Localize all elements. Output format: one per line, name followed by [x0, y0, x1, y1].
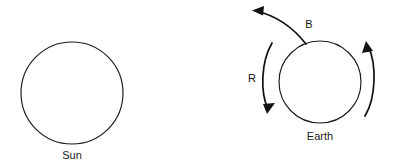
sun-circle — [21, 42, 123, 144]
earth-label: Earth — [307, 130, 333, 142]
r-vector-arc — [263, 43, 272, 109]
sun-earth-diagram: Sun Earth B R — [0, 0, 397, 167]
right-rotation-arrowhead-icon — [362, 41, 373, 53]
b-vector-label: B — [305, 18, 312, 30]
r-vector-label: R — [248, 72, 256, 84]
sun-label: Sun — [62, 149, 82, 161]
right-rotation-arc — [365, 46, 374, 116]
earth-circle — [279, 41, 361, 123]
diagram-canvas: Sun Earth B R — [0, 0, 397, 167]
b-vector-arc — [256, 11, 306, 44]
b-vector-arrowhead-icon — [252, 6, 264, 16]
r-vector-arrowhead-icon — [263, 103, 275, 114]
